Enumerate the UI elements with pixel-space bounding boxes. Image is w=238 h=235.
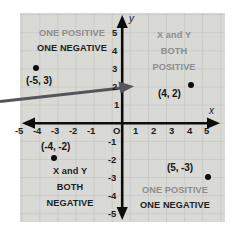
quadrant-1-line-3: POSITIVE bbox=[139, 63, 209, 72]
y-tick-neg-1: -1 bbox=[108, 137, 116, 147]
quadrant-3-line-3: NEGATIVE bbox=[33, 199, 107, 208]
y-axis-label: y bbox=[129, 14, 134, 24]
quadrant-1-line-1: X and Y bbox=[139, 31, 209, 40]
coordinate-plane-figure: y x O -5 -4 -3 -2 -1 1 2 3 4 5 5 4 3 2 1… bbox=[0, 0, 238, 235]
point-label-neg4-neg2: (-4, -2) bbox=[41, 142, 70, 152]
y-tick-pos-2: 2 bbox=[112, 82, 117, 92]
x-tick-neg-3: -3 bbox=[51, 126, 59, 136]
quadrant-2-line-2: ONE NEGATIVE bbox=[30, 44, 114, 53]
y-tick-pos-3: 3 bbox=[112, 64, 117, 74]
x-tick-neg-5: -5 bbox=[15, 126, 23, 136]
pointer-arrow-head bbox=[119, 82, 135, 94]
point-marker-neg5-3 bbox=[33, 65, 39, 71]
pointer-arrow-shaft bbox=[0, 88, 122, 102]
x-axis-label: x bbox=[209, 106, 214, 116]
quadrant-4-line-2: ONE NEGATIVE bbox=[133, 201, 217, 210]
point-marker-5-neg3 bbox=[205, 174, 211, 180]
y-tick-neg-2: -2 bbox=[108, 155, 116, 165]
origin-label: O bbox=[113, 126, 120, 136]
quadrant-3-line-2: BOTH bbox=[33, 183, 107, 192]
x-tick-pos-2: 2 bbox=[151, 126, 156, 136]
x-tick-pos-4: 4 bbox=[187, 126, 192, 136]
point-label-5-neg3: (5, -3) bbox=[167, 163, 193, 173]
point-label-4-2: (4, 2) bbox=[158, 89, 181, 99]
quadrant-2-line-1: ONE POSITIVE bbox=[30, 29, 114, 38]
y-tick-neg-3: -3 bbox=[108, 173, 116, 183]
x-tick-neg-4: -4 bbox=[33, 126, 41, 136]
point-marker-neg4-neg2 bbox=[51, 155, 57, 161]
x-tick-pos-3: 3 bbox=[169, 126, 174, 136]
y-tick-neg-4: -4 bbox=[108, 191, 116, 201]
point-label-neg5-3: (-5, 3) bbox=[26, 76, 52, 86]
quadrant-3-line-1: X and Y bbox=[33, 167, 107, 176]
y-tick-neg-5: -5 bbox=[108, 209, 116, 219]
x-tick-pos-1: 1 bbox=[133, 126, 138, 136]
x-tick-neg-2: -2 bbox=[69, 126, 77, 136]
quadrant-4-line-1: ONE POSITIVE bbox=[133, 186, 217, 195]
point-marker-4-2 bbox=[188, 82, 194, 88]
x-tick-neg-1: -1 bbox=[87, 126, 95, 136]
quadrant-1-line-2: BOTH bbox=[139, 47, 209, 56]
x-tick-pos-5: 5 bbox=[204, 126, 209, 136]
y-tick-pos-1: 1 bbox=[114, 100, 119, 110]
